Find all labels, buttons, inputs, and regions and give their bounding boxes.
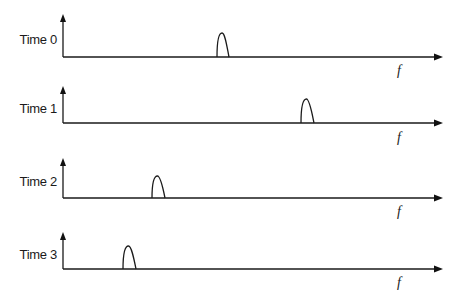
y-axis-arrow-icon — [60, 232, 66, 240]
frequency-axis-label: f — [397, 275, 403, 290]
x-axis-arrow-icon — [434, 120, 443, 127]
panel-time-1: Time 1 f — [20, 86, 443, 145]
frequency-diagram: Time 0 f Time 1 f Time 2 f Time 3 f — [0, 0, 464, 303]
panel-label: Time 0 — [20, 32, 58, 47]
panel-label: Time 3 — [20, 247, 58, 262]
panel-label: Time 2 — [20, 174, 58, 189]
signal-peak — [217, 33, 229, 57]
panel-time-3: Time 3 f — [20, 232, 443, 290]
signal-peak — [123, 246, 136, 269]
signal-peak — [152, 176, 165, 198]
x-axis-arrow-icon — [434, 266, 443, 273]
frequency-axis-label: f — [397, 63, 403, 78]
frequency-axis-label: f — [397, 204, 403, 219]
panel-label: Time 1 — [20, 101, 58, 116]
x-axis-arrow-icon — [434, 195, 443, 202]
signal-peak — [301, 99, 314, 123]
frequency-axis-label: f — [397, 130, 403, 145]
panel-time-0: Time 0 f — [20, 14, 443, 78]
panel-time-2: Time 2 f — [20, 158, 443, 219]
x-axis-arrow-icon — [434, 54, 443, 61]
y-axis-arrow-icon — [60, 14, 66, 22]
y-axis-arrow-icon — [60, 158, 66, 166]
y-axis-arrow-icon — [60, 86, 66, 94]
